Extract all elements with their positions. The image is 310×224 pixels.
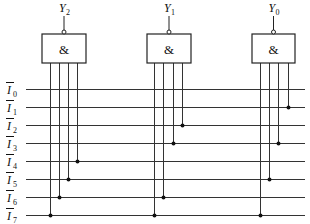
- junction-dot: [268, 178, 272, 182]
- input-label-subscript: 1: [13, 108, 17, 117]
- and-gate-Y2: &Y2: [42, 1, 86, 218]
- inversion-bubble: [62, 30, 66, 34]
- input-label-subscript: 6: [13, 198, 17, 207]
- junction-dot: [259, 214, 263, 218]
- input-label-subscript: 5: [13, 180, 17, 189]
- input-label-subscript: 2: [13, 126, 17, 135]
- input-label: I: [6, 155, 12, 169]
- encoder-circuit-diagram: I0I1I2I3I4I5I6I7 &Y2&Y1&Y0: [0, 0, 310, 224]
- input-label: I: [6, 173, 12, 187]
- output-label-subscript: 2: [66, 8, 70, 17]
- input-label-subscript: 0: [13, 90, 17, 99]
- junction-dot: [181, 124, 185, 128]
- junction-dot: [162, 196, 166, 200]
- junction-dot: [49, 214, 53, 218]
- and-symbol: &: [268, 42, 278, 57]
- input-label: I: [6, 101, 12, 115]
- and-symbol: &: [59, 42, 69, 57]
- input-label: I: [6, 137, 12, 151]
- and-gates: &Y2&Y1&Y0: [42, 1, 295, 218]
- input-label-subscript: 4: [13, 162, 17, 171]
- junction-dot: [67, 178, 71, 182]
- output-label-subscript: 1: [171, 8, 175, 17]
- and-gate-Y1: &Y1: [147, 1, 191, 218]
- input-label: I: [6, 83, 12, 97]
- output-label-subscript: 0: [276, 8, 280, 17]
- junction-dot: [277, 142, 281, 146]
- junction-dot: [76, 160, 80, 164]
- inversion-bubble: [272, 30, 276, 34]
- input-label: I: [6, 209, 12, 223]
- and-symbol: &: [164, 42, 174, 57]
- junction-dot: [58, 196, 62, 200]
- and-gate-Y0: &Y0: [252, 1, 295, 218]
- input-label: I: [6, 191, 12, 205]
- inversion-bubble: [167, 30, 171, 34]
- junction-dot: [287, 106, 291, 110]
- junction-dot: [172, 142, 176, 146]
- input-label-subscript: 7: [13, 216, 17, 224]
- junction-dot: [153, 214, 157, 218]
- input-label: I: [6, 119, 12, 133]
- input-label-subscript: 3: [13, 144, 17, 153]
